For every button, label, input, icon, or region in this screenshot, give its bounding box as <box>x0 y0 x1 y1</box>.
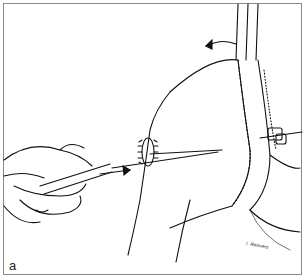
panel-label: a <box>9 258 16 273</box>
illustration <box>0 0 307 280</box>
